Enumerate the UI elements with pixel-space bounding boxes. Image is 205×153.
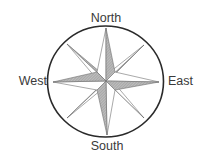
label-east: East	[168, 75, 193, 88]
label-south: South	[91, 140, 124, 153]
star-points	[53, 28, 159, 135]
label-north: North	[91, 12, 122, 25]
point-east	[106, 72, 159, 82]
point-south	[106, 81, 115, 135]
compass-rose-diagram: North West East South	[0, 0, 205, 153]
point-west	[53, 81, 106, 90]
label-west: West	[19, 75, 47, 88]
